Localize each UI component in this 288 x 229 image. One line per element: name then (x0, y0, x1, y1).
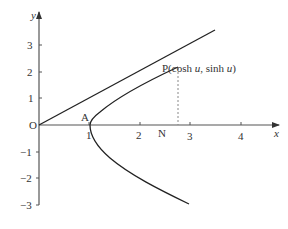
y-tick-label: −1 (20, 146, 32, 158)
y-tick-label: 3 (27, 39, 33, 51)
y-axis-label: y (30, 9, 36, 21)
x-axis-label: x (273, 127, 279, 139)
x-tick-label: 4 (238, 130, 244, 142)
y-tick-label: 1 (28, 92, 34, 104)
x-tick-label: 3 (187, 130, 193, 142)
point-p-label: P(cosh u, sinh u) (162, 62, 236, 75)
x-tick-label: 2 (136, 129, 142, 141)
point-a-label: A (81, 111, 89, 123)
hyperbola-diagram: 1 2 3 4 3 2 1 −1 −2 −3 x y O A N P(cosh … (0, 0, 288, 229)
y-tick-label: −3 (20, 199, 32, 211)
x-tick-label: 1 (86, 129, 92, 141)
origin-label: O (29, 119, 37, 131)
y-tick-label: −2 (20, 172, 32, 184)
y-tick-label: 2 (27, 66, 33, 78)
point-n-label: N (158, 127, 166, 139)
asymptote-line (39, 30, 215, 125)
